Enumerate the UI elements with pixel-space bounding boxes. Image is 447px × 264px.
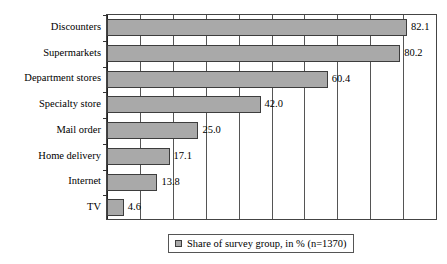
- category-label: Mail order: [0, 125, 101, 136]
- bar-group: 4.6: [107, 195, 436, 221]
- bar-group: 13.8: [107, 170, 436, 196]
- bar-group: 25.0: [107, 118, 436, 144]
- bar-value-label: 42.0: [265, 95, 283, 112]
- category-label: Discounters: [0, 22, 101, 33]
- bar-group: 42.0: [107, 92, 436, 118]
- bar-value-label: 13.8: [161, 173, 179, 190]
- bar-value-label: 25.0: [202, 121, 220, 138]
- bar-group: 60.4: [107, 67, 436, 93]
- chart-legend: Share of survey group, in % (n=1370): [168, 234, 354, 253]
- bar-group: 82.1: [107, 15, 436, 41]
- bar[interactable]: [107, 122, 198, 139]
- category-label: Home delivery: [0, 151, 101, 162]
- category-label: TV: [0, 202, 101, 213]
- bar[interactable]: [107, 148, 170, 165]
- plot-area: 82.180.260.442.025.017.113.84.6: [106, 14, 437, 220]
- bar-chart: DiscountersSupermarketsDepartment stores…: [0, 0, 447, 264]
- bar-value-label: 60.4: [332, 70, 350, 87]
- bar[interactable]: [107, 199, 124, 216]
- category-label: Department stores: [0, 73, 101, 84]
- category-label: Supermarkets: [0, 48, 101, 59]
- bar[interactable]: [107, 71, 328, 88]
- category-axis-labels: DiscountersSupermarketsDepartment stores…: [0, 14, 101, 220]
- bar[interactable]: [107, 174, 157, 191]
- category-label: Specialty store: [0, 99, 101, 110]
- bar[interactable]: [107, 45, 400, 62]
- category-label: Internet: [0, 176, 101, 187]
- legend-label: Share of survey group, in % (n=1370): [187, 238, 347, 249]
- bar-value-label: 80.2: [404, 44, 422, 61]
- bar-group: 17.1: [107, 144, 436, 170]
- bar-value-label: 17.1: [174, 147, 192, 164]
- bar-group: 80.2: [107, 41, 436, 67]
- legend-swatch-icon: [175, 240, 182, 247]
- bar[interactable]: [107, 19, 407, 36]
- bar[interactable]: [107, 96, 261, 113]
- bar-value-label: 82.1: [411, 18, 429, 35]
- bar-value-label: 4.6: [128, 198, 141, 215]
